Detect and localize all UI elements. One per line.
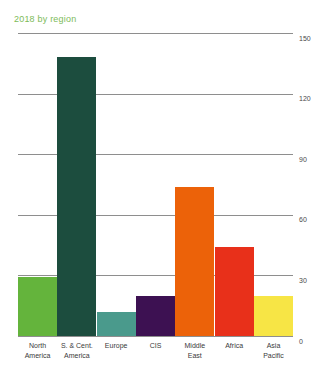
gridline: [18, 33, 293, 34]
y-tick-label: 30: [299, 277, 307, 285]
y-tick-label: 90: [299, 156, 307, 164]
bar: [175, 187, 214, 336]
chart-title: 2018 by region: [14, 14, 76, 24]
bar: [136, 296, 175, 336]
plot-area: [18, 33, 293, 336]
bar: [215, 247, 254, 336]
bar: [254, 296, 293, 336]
y-tick-label: 120: [299, 95, 311, 103]
bar: [97, 312, 136, 336]
gridline: [18, 336, 293, 337]
bar: [18, 277, 57, 336]
bar: [57, 57, 96, 336]
y-tick-label: 150: [299, 35, 311, 43]
x-category-label: Asia Pacific: [248, 341, 299, 360]
y-tick-label: 60: [299, 216, 307, 224]
y-tick-label: 0: [299, 338, 303, 346]
bar-chart: 2018 by region 1501209060300 North Ameri…: [0, 0, 322, 377]
